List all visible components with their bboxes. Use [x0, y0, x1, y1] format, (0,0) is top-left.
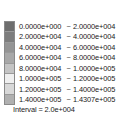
range-low-value: 4.0000e+004: [19, 44, 64, 51]
range-high-value: 8.0000e+004: [73, 54, 118, 61]
range-low-value: 6.0000e+004: [19, 54, 64, 61]
range-separator: ~: [64, 75, 73, 82]
range-high-value: 1.4307e+005: [73, 96, 118, 103]
colorbar-range-row: 2.0000e+004 ~ 4.0000e+004: [19, 32, 122, 43]
colorbar-swatch-column: [4, 21, 15, 105]
colorbar-swatch: [5, 84, 14, 94]
range-low-value: 1.4000e+005: [19, 96, 64, 103]
range-separator: ~: [64, 23, 73, 30]
range-separator: ~: [64, 54, 73, 61]
range-high-value: 2.0000e+004: [73, 23, 118, 30]
range-low-value: 1.0000e+005: [19, 75, 64, 82]
colorbar-range-row: 6.0000e+004 ~ 8.0000e+004: [19, 53, 122, 64]
colorbar-range-row: 1.0000e+005 ~ 1.2000e+005: [19, 74, 122, 85]
colorbar-swatch: [5, 95, 14, 104]
range-separator: ~: [64, 65, 73, 72]
colorbar-legend: 0.0000e+000 ~ 2.0000e+004 2.0000e+004 ~ …: [0, 0, 122, 124]
range-separator: ~: [64, 96, 73, 103]
range-high-value: 1.2000e+005: [73, 75, 118, 82]
range-high-value: 1.4000e+005: [73, 86, 118, 93]
range-separator: ~: [64, 86, 73, 93]
range-low-value: 0.0000e+000: [19, 23, 64, 30]
range-low-value: 2.0000e+004: [19, 33, 64, 40]
colorbar-range-row: 1.2000e+005 ~ 1.4000e+005: [19, 84, 122, 95]
colorbar-swatch: [5, 64, 14, 74]
colorbar-range-row: 8.0000e+004 ~ 1.0000e+005: [19, 63, 122, 74]
colorbar-swatch: [5, 43, 14, 53]
range-high-value: 6.0000e+004: [73, 44, 118, 51]
colorbar-swatch: [5, 74, 14, 84]
colorbar-swatch: [5, 53, 14, 63]
colorbar-range-row: 4.0000e+004 ~ 6.0000e+004: [19, 42, 122, 53]
colorbar-swatch: [5, 32, 14, 42]
colorbar-range-list: 0.0000e+000 ~ 2.0000e+004 2.0000e+004 ~ …: [19, 21, 122, 105]
interval-label: Interval = 2.0e+004: [13, 106, 75, 113]
range-separator: ~: [64, 44, 73, 51]
range-low-value: 8.0000e+004: [19, 65, 64, 72]
colorbar-range-row: 1.4000e+005 ~ 1.4307e+005: [19, 95, 122, 106]
colorbar-range-row: 0.0000e+000 ~ 2.0000e+004: [19, 21, 122, 32]
range-high-value: 4.0000e+004: [73, 33, 118, 40]
range-low-value: 1.2000e+005: [19, 86, 64, 93]
range-high-value: 1.0000e+005: [73, 65, 118, 72]
range-separator: ~: [64, 33, 73, 40]
colorbar-swatch: [5, 22, 14, 32]
